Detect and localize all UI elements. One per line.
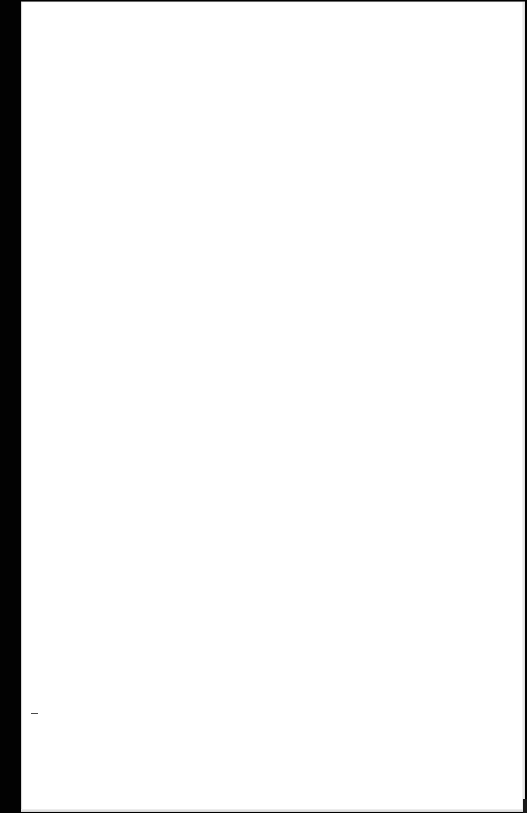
sheet-bottom-edge: [21, 809, 525, 812]
small-dash-mark: [31, 713, 38, 714]
corner-shadow: [523, 799, 527, 813]
blank-sheet: [21, 1, 525, 812]
sheet-right-edge: [522, 2, 525, 812]
sheet-content: [41, 718, 181, 758]
left-dark-strip: [0, 0, 21, 813]
page-frame: [0, 0, 527, 813]
